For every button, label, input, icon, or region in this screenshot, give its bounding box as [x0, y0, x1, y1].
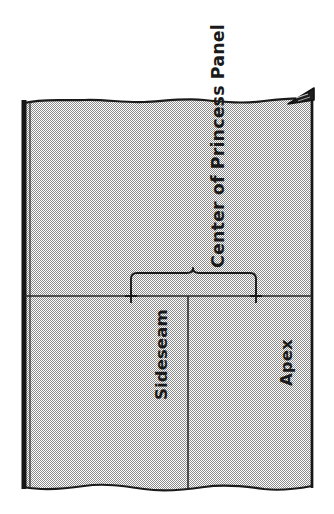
label-apex: Apex — [277, 339, 296, 386]
fabric-fill — [20, 92, 316, 496]
princess-panel-diagram: Center of Princess Panel Sideseam Apex — [0, 0, 334, 514]
fabric-body — [20, 92, 316, 496]
label-sideseam: Sideseam — [152, 309, 171, 400]
diagram-svg — [0, 0, 334, 514]
label-center-of-princess-panel: Center of Princess Panel — [208, 24, 228, 268]
